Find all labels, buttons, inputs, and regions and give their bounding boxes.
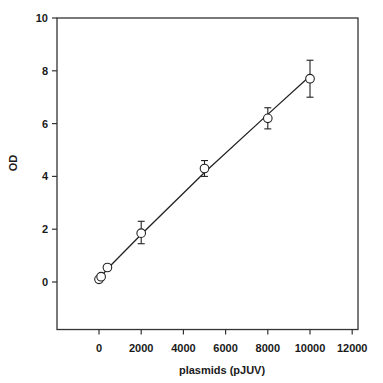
x-tick-label: 8000 bbox=[256, 342, 280, 354]
data-point-marker bbox=[200, 164, 209, 173]
x-tick-label: 10000 bbox=[295, 342, 326, 354]
data-point-marker bbox=[264, 114, 273, 123]
y-axis-ticks: 0246810 bbox=[36, 12, 57, 288]
y-tick-label: 4 bbox=[42, 170, 49, 182]
x-tick-label: 6000 bbox=[213, 342, 237, 354]
x-tick-label: 12000 bbox=[337, 342, 368, 354]
data-points bbox=[95, 60, 315, 283]
x-tick-label: 0 bbox=[96, 342, 102, 354]
x-axis-title: plasmids (pJUV) bbox=[179, 364, 266, 376]
data-point-marker bbox=[97, 272, 106, 281]
data-point-marker bbox=[103, 263, 112, 272]
chart: 0246810 020004000600080001000012000 plas… bbox=[0, 0, 383, 383]
regression-line bbox=[99, 76, 310, 279]
y-tick-label: 2 bbox=[42, 223, 48, 235]
x-tick-label: 4000 bbox=[171, 342, 195, 354]
data-point-marker bbox=[306, 74, 315, 83]
y-tick-label: 6 bbox=[42, 118, 48, 130]
y-tick-label: 0 bbox=[42, 276, 48, 288]
y-axis-title: OD bbox=[7, 155, 19, 172]
y-tick-label: 10 bbox=[36, 12, 48, 24]
x-axis-ticks: 020004000600080001000012000 bbox=[96, 330, 368, 354]
x-tick-label: 2000 bbox=[129, 342, 153, 354]
data-point-marker bbox=[137, 229, 146, 238]
fit-line bbox=[99, 76, 310, 279]
y-tick-label: 8 bbox=[42, 65, 48, 77]
